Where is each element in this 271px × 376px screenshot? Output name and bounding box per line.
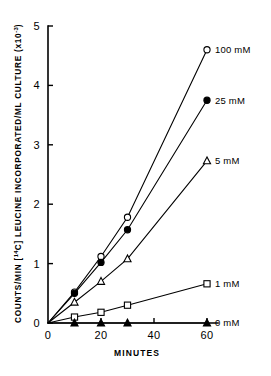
y-title-isotope-element: C: [14, 244, 23, 251]
series-line-100-mm: [48, 50, 207, 323]
x-tick-label-40: 40: [148, 329, 161, 341]
y-tick-label-0: 0: [34, 317, 40, 329]
x-tick-label-20: 20: [95, 329, 108, 341]
data-point-25-mm-20min: [98, 259, 104, 265]
y-tick-label-1: 1: [34, 258, 40, 270]
series-line-5-mm: [48, 161, 207, 323]
data-point-1-mm-60min: [204, 281, 210, 287]
data-point-5-mm-10min: [71, 298, 78, 305]
series-label-1-mm: 1 mM: [215, 278, 240, 289]
data-point-1-mm-20min: [98, 309, 104, 315]
y-tick-label-3: 3: [34, 139, 40, 151]
data-point-100-mm-20min: [98, 253, 104, 259]
series-label-100-mm: 100 mM: [215, 44, 251, 55]
data-point-100-mm-60min: [204, 47, 210, 53]
series-line-25-mm: [48, 100, 207, 323]
y-axis-title: COUNTS/MIN [14C] LEUCINE INCORPORATED/ML…: [13, 24, 23, 323]
series-labels-group: 100 mM25 mM5 mM1 mM0 mM: [215, 44, 251, 328]
x-tick-label-60: 60: [201, 329, 214, 341]
y-tick-label-2: 2: [34, 198, 40, 210]
data-point-25-mm-10min: [71, 290, 77, 296]
x-axis-title: MINUTES: [114, 348, 160, 358]
figure-panel: 0123450204060 100 mM25 mM5 mM1 mM0 mM MI…: [0, 0, 271, 376]
series-label-5-mm: 5 mM: [215, 155, 240, 166]
y-title-middle: ] LEUCINE INCORPORATED/ML CULTURE (x10: [14, 33, 23, 244]
y-axis-title-text: COUNTS/MIN [14C] LEUCINE INCORPORATED/ML…: [13, 24, 23, 323]
axes-group: [48, 26, 218, 323]
y-tick-label-4: 4: [34, 79, 40, 91]
x-axis-title-text: MINUTES: [114, 348, 160, 358]
x-tick-label-0: 0: [45, 329, 51, 341]
data-point-25-mm-60min: [204, 97, 210, 103]
tick-labels-group: 0123450204060: [34, 20, 214, 341]
data-point-100-mm-30min: [124, 214, 130, 220]
data-point-5-mm-20min: [97, 278, 104, 285]
data-point-25-mm-30min: [124, 227, 130, 233]
data-point-1-mm-30min: [124, 302, 130, 308]
data-point-5-mm-60min: [203, 157, 210, 164]
series-label-0-mm: 0 mM: [215, 317, 240, 328]
y-tick-label-5: 5: [34, 20, 40, 32]
y-title-prefix: COUNTS/MIN [: [14, 257, 23, 323]
line-chart: 0123450204060 100 mM25 mM5 mM1 mM0 mM MI…: [0, 0, 271, 376]
series-label-25-mm: 25 mM: [215, 95, 245, 106]
series-group: [48, 47, 211, 326]
y-title-suffix: ): [14, 24, 23, 27]
